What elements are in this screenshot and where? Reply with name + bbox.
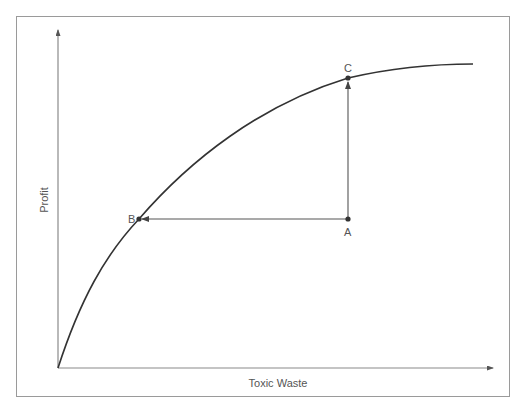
point-b-label: B [128,213,135,225]
point-a [345,216,350,221]
point-a-label: A [344,226,352,238]
y-axis-label: Profit [38,187,50,213]
point-b [136,216,141,221]
point-c-label: C [344,62,352,74]
profit-curve [58,64,473,368]
point-c [345,75,350,80]
profit-toxic-waste-diagram: A B C Toxic Waste Profit [0,0,521,408]
x-axis-label: Toxic Waste [249,377,308,389]
